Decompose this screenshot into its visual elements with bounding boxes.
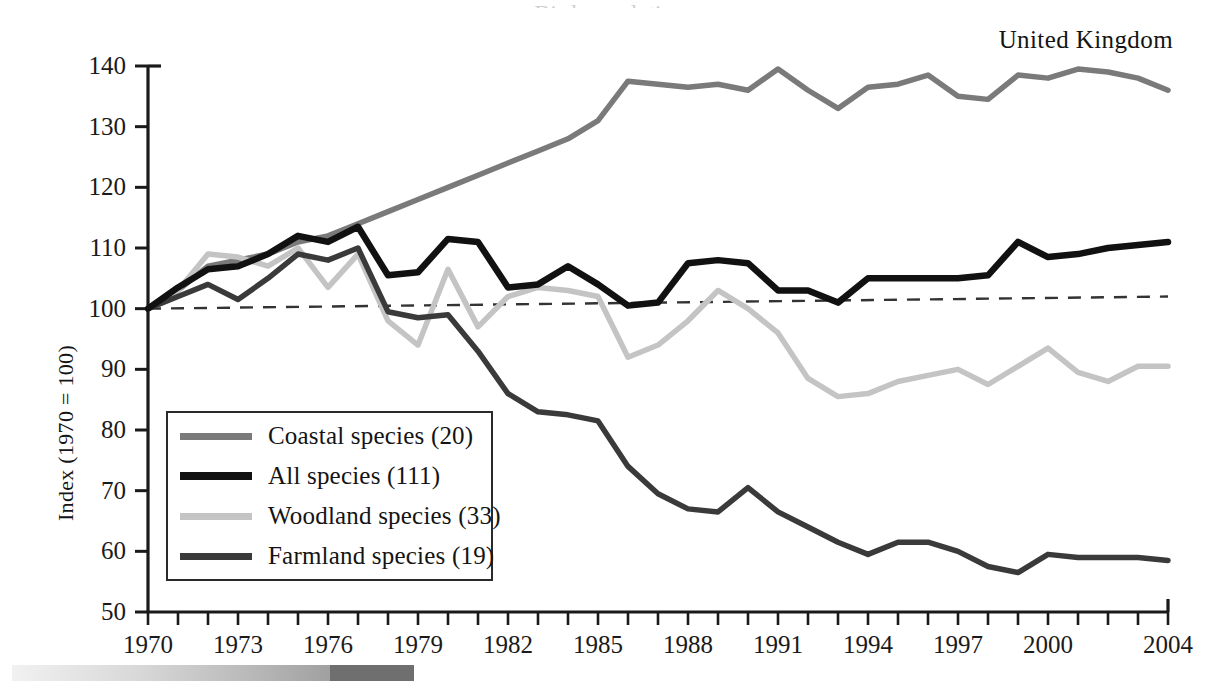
bottom-bar-solid xyxy=(330,665,414,681)
bottom-gradient-bar xyxy=(12,665,414,681)
legend-swatch-woodland xyxy=(180,513,252,520)
bottom-bar-gradient xyxy=(12,665,330,681)
legend-item-all[interactable]: All species (111) xyxy=(180,461,440,491)
legend-swatch-farmland xyxy=(180,553,252,560)
y-tick-label: 100 xyxy=(26,296,126,321)
y-tick-label: 140 xyxy=(26,53,126,78)
legend-label-woodland: Woodland species (33) xyxy=(268,502,501,530)
y-tick-label: 120 xyxy=(26,174,126,199)
y-tick-label: 70 xyxy=(26,478,126,503)
legend-item-coastal[interactable]: Coastal species (20) xyxy=(180,421,473,451)
legend-swatch-all xyxy=(180,472,252,480)
y-tick-label: 130 xyxy=(26,114,126,139)
x-tick-label: 2004 xyxy=(1113,632,1223,657)
legend-label-all: All species (111) xyxy=(268,462,440,490)
x-tick-label: 2000 xyxy=(993,632,1103,657)
legend-item-woodland[interactable]: Woodland species (33) xyxy=(180,501,501,531)
legend-swatch-coastal xyxy=(180,433,252,440)
plot-area xyxy=(0,0,1229,691)
y-tick-label: 80 xyxy=(26,417,126,442)
y-tick-label: 90 xyxy=(26,356,126,381)
legend-label-coastal: Coastal species (20) xyxy=(268,422,473,450)
legend-label-farmland: Farmland species (19) xyxy=(268,542,494,570)
y-tick-label: 60 xyxy=(26,538,126,563)
legend: Coastal species (20) All species (111) W… xyxy=(166,411,493,581)
y-tick-label: 50 xyxy=(26,599,126,624)
chart-root: Bird populations United Kingdom Index (1… xyxy=(0,0,1229,691)
legend-item-farmland[interactable]: Farmland species (19) xyxy=(180,541,494,571)
y-tick-label: 110 xyxy=(26,235,126,260)
